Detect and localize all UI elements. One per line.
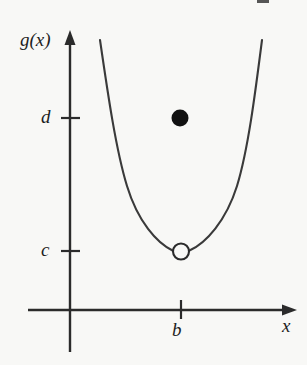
filled-dot-marker xyxy=(172,110,189,127)
graph-figure: g(x) x d c b xyxy=(0,0,307,365)
y-axis-arrow-icon xyxy=(65,30,76,45)
scan-artifact-speck xyxy=(257,0,269,3)
parabola-left-branch xyxy=(100,40,173,251)
y-tick-label-d: d xyxy=(41,107,51,126)
y-tick-label-c: c xyxy=(41,240,49,259)
graph-canvas xyxy=(0,0,307,365)
x-tick-label-b: b xyxy=(172,320,182,339)
parabola-right-branch xyxy=(190,40,263,251)
open-circle-marker xyxy=(173,244,189,260)
y-axis-label: g(x) xyxy=(20,30,51,49)
x-axis-arrow-icon xyxy=(282,305,297,316)
x-axis-label: x xyxy=(282,316,290,335)
